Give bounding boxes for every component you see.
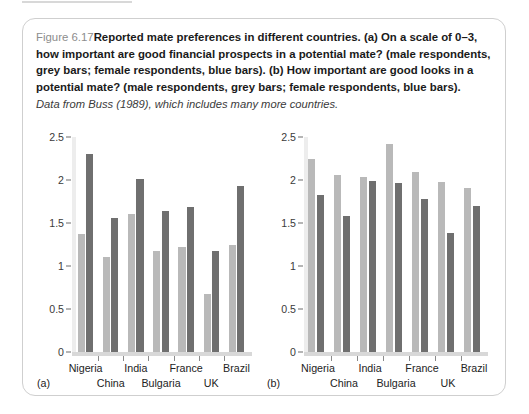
bar-female-china — [111, 218, 118, 352]
x-axis-label-france: France — [405, 362, 438, 374]
x-axis-label-bulgaria: Bulgaria — [141, 377, 180, 389]
y-tick-label: 0 — [290, 346, 296, 358]
y-tick-label: 1 — [290, 260, 296, 272]
chart-panel-a: 00.511.522.5 NigeriaChinaIndiaBulgariaFr… — [31, 137, 265, 389]
x-tick-mark — [383, 356, 384, 361]
bar-male-nigeria — [308, 159, 315, 352]
plot-area-b — [303, 137, 485, 352]
top-dashed-rule — [22, 1, 132, 3]
y-tick-mark — [66, 266, 71, 267]
bar-male-india — [128, 214, 135, 352]
x-tick-mark — [409, 356, 410, 361]
x-axis-label-china: China — [97, 377, 125, 389]
x-tick-mark — [98, 356, 99, 361]
bar-male-india — [360, 177, 367, 352]
x-axis-label-uk: UK — [441, 377, 456, 389]
x-axis-label-france: France — [170, 362, 203, 374]
x-tick-mark — [174, 356, 175, 361]
y-tick-label: 1.5 — [49, 217, 64, 229]
figure-caption: Figure 6.17Reported mate preferences in … — [36, 29, 494, 113]
x-tick-mark — [199, 356, 200, 361]
bar-female-nigeria — [86, 154, 93, 352]
x-tick-mark — [148, 356, 149, 361]
bar-female-india — [369, 181, 376, 352]
y-tick-mark — [66, 180, 71, 181]
bar-female-china — [343, 216, 350, 352]
bar-male-nigeria — [78, 234, 85, 352]
y-tick-label: 1 — [58, 260, 64, 272]
page-top-strip — [0, 0, 529, 6]
bar-male-bulgaria — [386, 144, 393, 352]
x-axis-label-nigeria: Nigeria — [69, 362, 103, 374]
x-axis-label-uk: UK — [204, 377, 219, 389]
x-tick-mark — [435, 356, 436, 361]
panel-letter-b: (b) — [267, 377, 280, 389]
x-axis-label-nigeria: Nigeria — [301, 362, 335, 374]
y-tick-mark — [66, 352, 71, 353]
y-tick-label: 0.5 — [49, 303, 64, 315]
figure-number: Figure 6.17 — [36, 31, 94, 43]
chart-panel-b: 00.511.522.5 NigeriaChinaIndiaBulgariaFr… — [263, 137, 501, 389]
bar-female-bulgaria — [162, 211, 169, 352]
bar-female-brazil — [237, 186, 244, 352]
plot-area-a — [73, 137, 249, 352]
bar-male-brazil — [464, 188, 471, 352]
x-axis-labels-b: NigeriaChinaIndiaBulgariaFranceUKBrazil — [305, 362, 491, 396]
x-tick-mark — [461, 356, 462, 361]
x-axis-label-india: India — [124, 362, 147, 374]
x-tick-mark — [224, 356, 225, 361]
bar-female-uk — [212, 251, 219, 352]
x-tick-mark — [123, 356, 124, 361]
bar-female-uk — [447, 233, 454, 352]
bar-female-brazil — [473, 206, 480, 352]
bar-female-nigeria — [317, 195, 324, 352]
y-tick-mark — [66, 137, 71, 138]
bar-male-uk — [204, 294, 211, 352]
y-tick-label: 2.5 — [49, 131, 64, 143]
x-tick-mark — [331, 356, 332, 361]
figure-caption-text: Reported mate preferences in different c… — [36, 31, 490, 93]
y-tick-label: 2 — [290, 174, 296, 186]
y-tick-label: 1.5 — [281, 217, 296, 229]
bar-male-france — [178, 247, 185, 352]
x-axis-labels-a: NigeriaChinaIndiaBulgariaFranceUKBrazil — [73, 362, 259, 396]
figure-source-note: Data from Buss (1989), which includes ma… — [36, 96, 494, 113]
bar-male-brazil — [229, 245, 236, 353]
y-tick-label: 2.5 — [281, 131, 296, 143]
y-axis-b: 00.511.522.5 — [263, 137, 305, 352]
y-tick-mark — [66, 223, 71, 224]
x-axis-label-brazil: Brazil — [461, 362, 488, 374]
bar-male-bulgaria — [153, 251, 160, 352]
x-tick-mark — [357, 356, 358, 361]
bar-female-bulgaria — [395, 183, 402, 352]
bar-male-china — [334, 175, 341, 352]
y-tick-label: 2 — [58, 174, 64, 186]
x-axis-label-bulgaria: Bulgaria — [376, 377, 415, 389]
y-axis-a: 00.511.522.5 — [31, 137, 73, 352]
y-tick-label: 0 — [58, 346, 64, 358]
x-axis-label-brazil: Brazil — [223, 362, 250, 374]
bar-female-india — [136, 179, 143, 352]
y-tick-mark — [66, 309, 71, 310]
bar-female-france — [421, 199, 428, 352]
bar-male-france — [412, 172, 419, 352]
bar-male-china — [103, 257, 110, 352]
bar-male-uk — [438, 182, 445, 352]
x-axis-label-china: China — [330, 377, 358, 389]
panel-letter-a: (a) — [37, 377, 50, 389]
y-tick-label: 0.5 — [281, 303, 296, 315]
bar-female-france — [187, 207, 194, 352]
figure-container: Figure 6.17Reported mate preferences in … — [22, 18, 506, 396]
x-axis-label-india: India — [358, 362, 381, 374]
